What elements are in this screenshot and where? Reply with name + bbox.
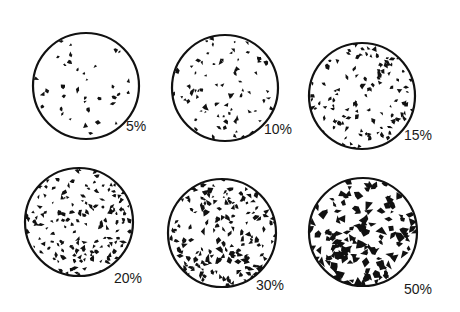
comparison-chart-canvas: [0, 0, 460, 312]
percentage-label: 10%: [264, 122, 292, 136]
coverage-circle-15: [309, 42, 415, 149]
percentage-label: 30%: [256, 278, 284, 292]
coverage-circle-50: [307, 178, 422, 289]
coverage-circle-10: [169, 35, 278, 141]
percentage-label: 20%: [114, 271, 142, 285]
circle-outline: [168, 179, 276, 287]
percentage-label: 15%: [404, 128, 432, 142]
circle-outline: [172, 35, 278, 141]
coverage-circle-30: [168, 178, 276, 288]
percentage-label: 5%: [126, 119, 146, 133]
circle-outline: [33, 33, 139, 139]
circle-outline: [309, 43, 415, 149]
percentage-label: 50%: [404, 282, 432, 296]
speckle-fill: [34, 40, 130, 135]
coverage-circle-5: [33, 33, 139, 139]
coverage-circle-20: [24, 168, 133, 276]
